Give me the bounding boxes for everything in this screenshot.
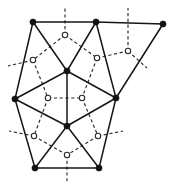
dual-vertex-node [125,48,130,53]
primal-vertex-node [64,123,70,129]
figure-container [0,0,175,187]
dual-vertex-node [45,95,50,100]
primal-vertex-node [12,96,18,102]
primal-vertex-node [96,165,102,171]
primal-vertex-node [160,21,166,27]
primal-vertex-node [113,95,119,101]
dual-vertex-node [31,133,36,138]
primal-vertex-node [93,19,99,25]
primal-vertex-node [64,68,70,74]
primal-vertex-node [32,165,38,171]
dual-vertex-node [30,57,35,62]
graph-diagram-canvas [0,0,175,187]
primal-vertex-node [30,19,36,25]
dual-vertex-node [94,55,99,60]
dual-vertex-node [79,95,84,100]
dual-vertex-node [62,32,67,37]
dual-vertex-node [64,152,69,157]
dual-vertex-node [95,133,100,138]
